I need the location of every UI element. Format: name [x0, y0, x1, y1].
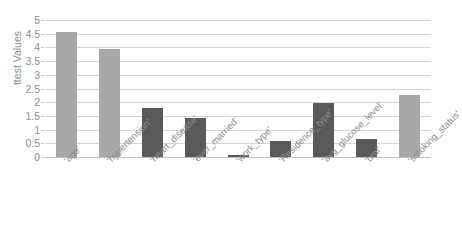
plot-area: 00.511.522.533.544.55	[45, 20, 431, 157]
y-tick-label: 0	[34, 152, 40, 163]
y-tick-mark	[41, 157, 44, 158]
y-tick-mark	[41, 116, 44, 117]
bar	[99, 49, 120, 157]
y-tick-mark	[41, 102, 44, 103]
x-axis-labels: 'age''hypertension''heart_disease''ever_…	[45, 158, 431, 242]
chart-title: Absolute ttest Values for Feature Select…	[0, 0, 437, 2]
y-tick-mark	[41, 143, 44, 144]
y-tick-label: 4	[34, 42, 40, 53]
y-tick-mark	[41, 75, 44, 76]
y-tick-label: 0.5	[25, 138, 40, 149]
y-tick-mark	[41, 47, 44, 48]
y-tick-label: 2	[34, 97, 40, 108]
y-tick-label: 3	[34, 70, 40, 81]
y-tick-mark	[41, 61, 44, 62]
y-axis-title: ttest Values	[11, 10, 23, 106]
y-tick-label: 5	[34, 15, 40, 26]
bar-series	[45, 20, 431, 157]
y-tick-label: 2.5	[25, 83, 40, 94]
bar	[56, 32, 77, 157]
y-tick-mark	[41, 20, 44, 21]
y-tick-mark	[41, 89, 44, 90]
y-tick-mark	[41, 130, 44, 131]
y-tick-label: 4.5	[25, 28, 40, 39]
y-tick-label: 3.5	[25, 56, 40, 67]
y-tick-mark	[41, 34, 44, 35]
y-tick-label: 1	[34, 124, 40, 135]
y-tick-label: 1.5	[25, 111, 40, 122]
